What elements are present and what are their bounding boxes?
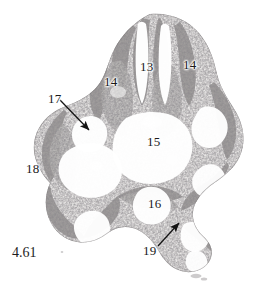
label-14-left: 14 (104, 75, 117, 88)
label-15: 15 (147, 135, 160, 148)
label-19: 19 (143, 244, 156, 257)
label-14-right: 14 (183, 58, 196, 71)
label-16: 16 (148, 197, 161, 210)
micrograph-figure: 13 14 14 15 16 17 18 19 4.61 (0, 0, 263, 296)
tissue-micrograph-image (0, 0, 263, 296)
label-18: 18 (26, 162, 39, 175)
label-17: 17 (48, 92, 61, 105)
label-13: 13 (140, 60, 153, 73)
figure-number: 4.61 (12, 246, 37, 260)
